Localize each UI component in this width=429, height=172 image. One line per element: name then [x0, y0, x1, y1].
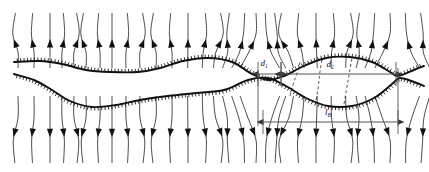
- streamline-arrowhead: [224, 39, 231, 48]
- streamline-arrowhead: [354, 39, 362, 49]
- streamline-arrowhead: [47, 129, 53, 138]
- streamline-arrowhead: [216, 128, 225, 138]
- streamline-arrowhead: [11, 38, 20, 48]
- streamline-arrowhead: [313, 39, 320, 48]
- streamline-arrowhead: [215, 38, 224, 48]
- streamline-arrowhead: [72, 38, 81, 48]
- hatch-tick: [118, 105, 119, 108]
- streamline-arrowhead: [329, 38, 337, 48]
- streamline-arrowhead: [224, 128, 230, 137]
- streamline-arrowhead: [420, 128, 426, 137]
- streamline-arrowhead: [330, 128, 337, 137]
- streamline: [275, 13, 286, 68]
- streamline-arrowhead: [79, 38, 88, 48]
- streamline-arrowhead: [201, 38, 209, 48]
- hatch-tick: [188, 57, 189, 60]
- streamline-arrowhead: [404, 40, 412, 50]
- hatch-tick: [401, 78, 402, 81]
- hatch-tick: [380, 94, 382, 97]
- streamline-arrowhead: [138, 38, 147, 48]
- streamline-arrowhead: [167, 38, 175, 47]
- hatch-tick: [391, 85, 393, 88]
- streamline: [279, 13, 294, 68]
- hatch-tick: [328, 54, 329, 57]
- streamline-arrowhead: [73, 128, 81, 138]
- streamline-arrowhead: [124, 38, 132, 48]
- hatch-tick: [112, 106, 113, 109]
- streamline-arrowhead: [313, 129, 319, 138]
- hatch-tick: [328, 106, 329, 109]
- streamline-arrowhead: [274, 40, 281, 49]
- streamline-arrowhead: [185, 39, 191, 48]
- hatch-tick: [145, 68, 146, 71]
- hatch-tick: [383, 92, 385, 95]
- streamline-arrowhead: [78, 128, 86, 138]
- streamline: [81, 13, 87, 68]
- upper-interface: [14, 57, 424, 80]
- streamline-arrowhead: [148, 128, 156, 138]
- streamline-arrowhead: [149, 38, 158, 48]
- streamline-arrowhead: [346, 38, 355, 48]
- lower-interface: [14, 74, 424, 107]
- streamline-arrowhead: [109, 129, 115, 138]
- streamline-arrowhead: [264, 40, 272, 50]
- streamline-arrowhead: [248, 39, 257, 49]
- width-dimension-label: d2: [326, 59, 334, 70]
- streamline: [421, 13, 429, 68]
- streamline-arrowhead: [404, 127, 412, 137]
- streamline: [232, 13, 245, 68]
- hatch-tick: [51, 59, 52, 62]
- streamline-arrowhead: [249, 127, 258, 137]
- hatch-tick: [386, 89, 388, 92]
- hatch-tick: [55, 59, 56, 62]
- hatch-tick: [87, 106, 88, 109]
- streamline-arrowhead: [295, 128, 303, 138]
- streamline-arrowhead: [109, 39, 115, 48]
- streamline-arrowhead: [383, 127, 392, 137]
- streamline-arrowhead: [369, 128, 376, 137]
- streamline: [375, 13, 391, 68]
- hatch-tick: [148, 99, 149, 102]
- streamline-arrowhead: [238, 39, 246, 49]
- streamline-arrowhead: [60, 38, 68, 48]
- streamline-arrowhead: [185, 129, 191, 138]
- gap-dimension-label: d1: [260, 58, 268, 69]
- vector-field-diagram: d1 d2 lB: [0, 0, 429, 172]
- streamline-arrowhead: [264, 127, 272, 137]
- streamline-arrowhead: [139, 128, 147, 138]
- streamline-arrowhead: [420, 40, 426, 49]
- hatch-tick: [219, 91, 220, 94]
- streamline: [346, 13, 354, 68]
- streamline-arrowhead: [202, 128, 210, 137]
- streamline-arrowhead: [382, 39, 391, 49]
- hatch-tick: [267, 78, 268, 81]
- hatch-tick: [145, 99, 146, 102]
- streamline-arrowhead: [47, 39, 53, 48]
- streamline-group: [10, 13, 429, 163]
- streamline-arrowhead: [238, 127, 246, 137]
- hatch-tick: [142, 100, 143, 103]
- streamline-arrowhead: [347, 128, 356, 138]
- hatch-tick: [355, 54, 356, 57]
- figure-canvas: d1 d2 lB: [0, 0, 429, 172]
- streamline: [151, 13, 157, 68]
- streamline-arrowhead: [95, 38, 103, 48]
- hatch-tick: [191, 56, 192, 59]
- interface-curve-group: [14, 53, 424, 110]
- interior-streamline: [344, 58, 352, 104]
- streamline: [74, 13, 80, 68]
- streamline: [405, 13, 419, 68]
- streamline: [140, 13, 146, 68]
- streamline-arrowhead: [295, 38, 303, 48]
- hatch-tick: [393, 83, 395, 85]
- hatch-tick: [388, 87, 390, 90]
- hatch-tick: [393, 71, 395, 74]
- streamline-arrowhead: [274, 128, 281, 137]
- streamline-arrowhead: [10, 128, 18, 138]
- streamline-arrowhead: [29, 38, 37, 48]
